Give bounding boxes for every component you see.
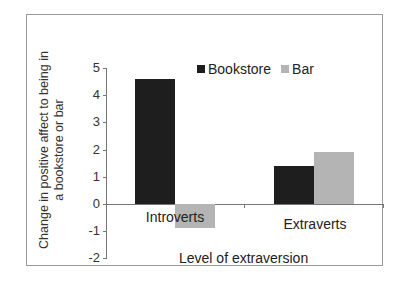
legend-swatch-bar	[281, 65, 289, 73]
category-label-extraverts: Extraverts	[260, 216, 370, 232]
legend-label-bar: Bar	[292, 61, 314, 77]
x-category-tick	[244, 204, 245, 208]
y-axis-title: Change in positive affect to being in a …	[37, 30, 67, 270]
bar-bookstore-introverts	[135, 79, 175, 204]
y-axis-title-line-1: Change in positive affect to being in	[37, 30, 52, 270]
bar-bar-extraverts	[314, 152, 354, 204]
y-tick-label: 3	[80, 115, 100, 129]
legend: Bookstore Bar	[197, 61, 314, 77]
y-tick-label: -2	[80, 251, 100, 265]
y-tick-label: 5	[80, 61, 100, 75]
legend-swatch-bookstore	[197, 65, 205, 73]
y-tick-label: 0	[80, 197, 100, 211]
category-label-introverts: Introverts	[120, 209, 230, 225]
legend-label-bookstore: Bookstore	[208, 61, 271, 77]
y-tick-label: -1	[80, 224, 100, 238]
y-axis-line	[106, 68, 107, 259]
x-axis-line	[106, 204, 384, 205]
y-tick-label: 1	[80, 170, 100, 184]
x-axis-title: Level of extraversion	[179, 250, 308, 266]
bar-bookstore-extraverts	[274, 166, 314, 204]
y-tick-label: 2	[80, 143, 100, 157]
y-axis-title-line-2: a bookstore or bar	[52, 30, 67, 270]
y-tick-label: 4	[80, 88, 100, 102]
x-category-tick-end	[383, 204, 384, 208]
